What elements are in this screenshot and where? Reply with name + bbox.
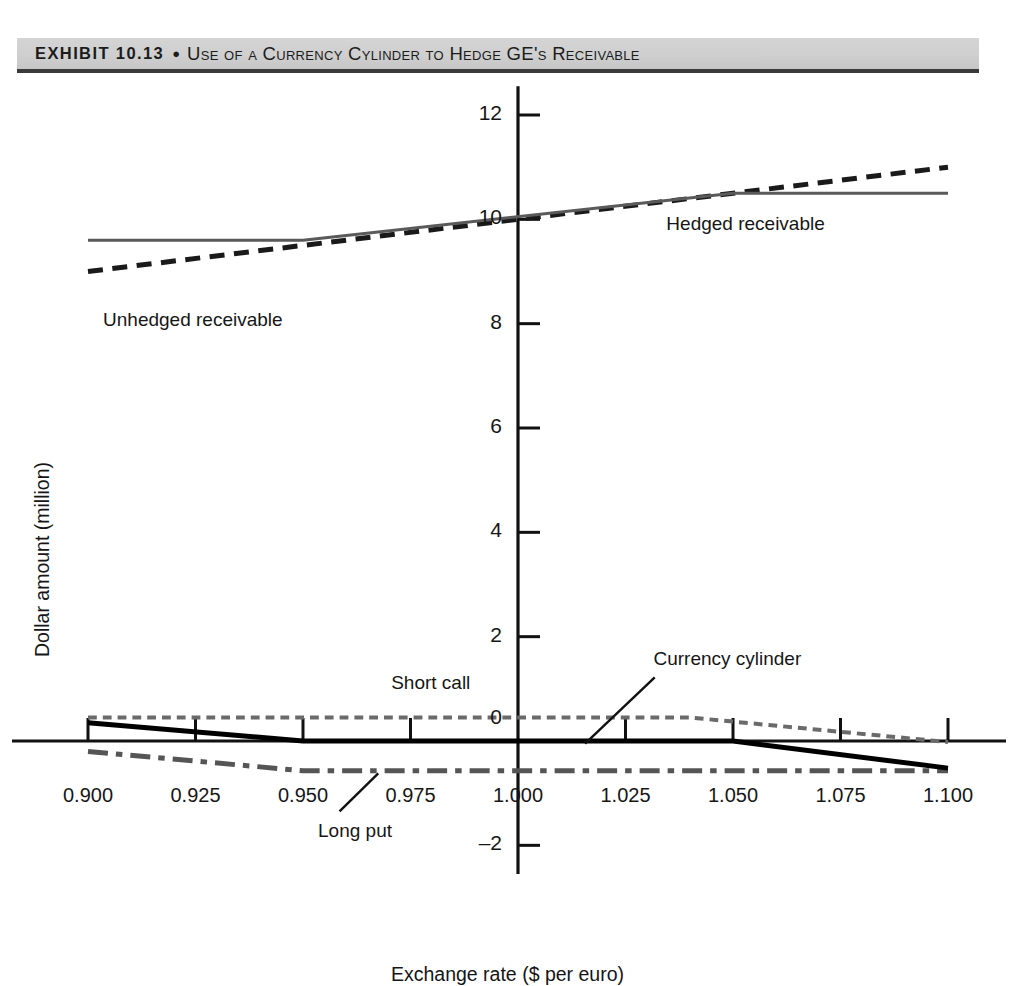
x-tick-label: 1.000 [458, 784, 578, 807]
chart-svg [0, 78, 1015, 966]
banner-underline-rule [17, 69, 979, 73]
chart-annotation-label: Short call [391, 672, 470, 694]
x-tick-label: 0.950 [243, 784, 363, 807]
y-tick-label: 8 [446, 310, 502, 334]
exhibit-banner: EXHIBIT 10.13 ● Use of a Currency Cylind… [17, 38, 979, 69]
bullet-icon: ● [172, 46, 180, 61]
annotation-leader-line [585, 677, 655, 743]
y-axis-title: Dollar amount (million) [31, 440, 54, 680]
x-tick-label: 1.075 [781, 784, 901, 807]
chart-annotation-label: Long put [318, 820, 392, 842]
y-tick-label: 0 [446, 705, 502, 729]
y-tick-label: 12 [446, 101, 502, 125]
y-tick-label: 4 [446, 518, 502, 542]
x-tick-label: 1.100 [888, 784, 1008, 807]
chart-annotation-label: Currency cylinder [653, 648, 801, 670]
exhibit-title: Use of a Currency Cylinder to Hedge GE's… [187, 43, 640, 65]
chart-annotation-label: Unhedged receivable [103, 309, 283, 331]
y-tick-label: –2 [446, 831, 502, 855]
x-tick-label: 0.925 [136, 784, 256, 807]
y-tick-label: 2 [446, 623, 502, 647]
chart-annotation-label: Hedged receivable [666, 213, 824, 235]
y-tick-label: 10 [446, 205, 502, 229]
x-tick-label: 0.900 [28, 784, 148, 807]
x-tick-label: 1.025 [566, 784, 686, 807]
exhibit-banner-text: EXHIBIT 10.13 ● Use of a Currency Cylind… [17, 38, 640, 69]
exhibit-number-label: EXHIBIT 10.13 [35, 44, 164, 63]
x-axis-title: Exchange rate ($ per euro) [0, 963, 1015, 986]
x-tick-label: 0.975 [351, 784, 471, 807]
x-tick-label: 1.050 [673, 784, 793, 807]
chart-plot-area: 12108642–200.9000.9250.9500.9751.0001.02… [0, 78, 1015, 966]
y-tick-label: 6 [446, 414, 502, 438]
